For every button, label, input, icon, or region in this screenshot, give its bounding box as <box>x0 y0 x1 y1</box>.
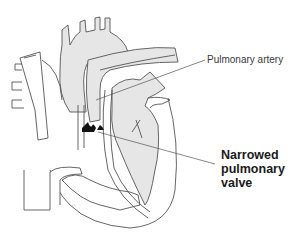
inferior-vena-cava <box>24 167 82 210</box>
pulmonary-veins-left <box>12 64 24 108</box>
label-pulmonary-artery: Pulmonary artery <box>207 54 283 65</box>
label-narrowed-pulmonary-valve: Narrowed pulmonary valve <box>221 148 285 190</box>
label-line-3: valve <box>221 176 285 190</box>
label-line-2: pulmonary <box>221 162 285 176</box>
label-line-1: Narrowed <box>221 148 285 162</box>
superior-vena-cava <box>20 52 48 140</box>
heart-diagram <box>0 0 295 246</box>
pulmonary-valve <box>82 122 104 132</box>
left-ventricle <box>112 72 165 205</box>
